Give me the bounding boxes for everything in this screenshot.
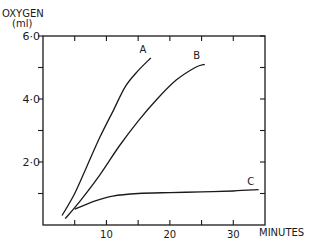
x-axis-label: MINUTES — [259, 227, 304, 238]
y-tick-label: 2·0 — [23, 156, 41, 169]
x-tick-label: 30 — [227, 229, 240, 240]
curve-c — [75, 190, 259, 210]
y-tick-label: 6·0 — [23, 30, 41, 43]
axis-labels: OXYGEN (ml) MINUTES 1020302·04·06·0 — [2, 8, 304, 240]
y-axis-units: (ml) — [12, 18, 32, 29]
curve-label-b: B — [193, 50, 200, 61]
curve-label-c: C — [247, 176, 254, 187]
data-curves: ABC — [62, 44, 259, 219]
plot-frame — [43, 36, 265, 225]
oxygen-chart: ABC OXYGEN (ml) MINUTES 1020302·04·06·0 — [0, 0, 314, 251]
axes-frame — [38, 36, 265, 225]
x-tick-label: 10 — [100, 229, 113, 240]
x-tick-label: 20 — [163, 229, 176, 240]
curve-a — [62, 58, 151, 216]
curve-b — [65, 64, 205, 218]
curve-label-a: A — [139, 44, 146, 55]
y-tick-label: 4·0 — [23, 93, 41, 106]
